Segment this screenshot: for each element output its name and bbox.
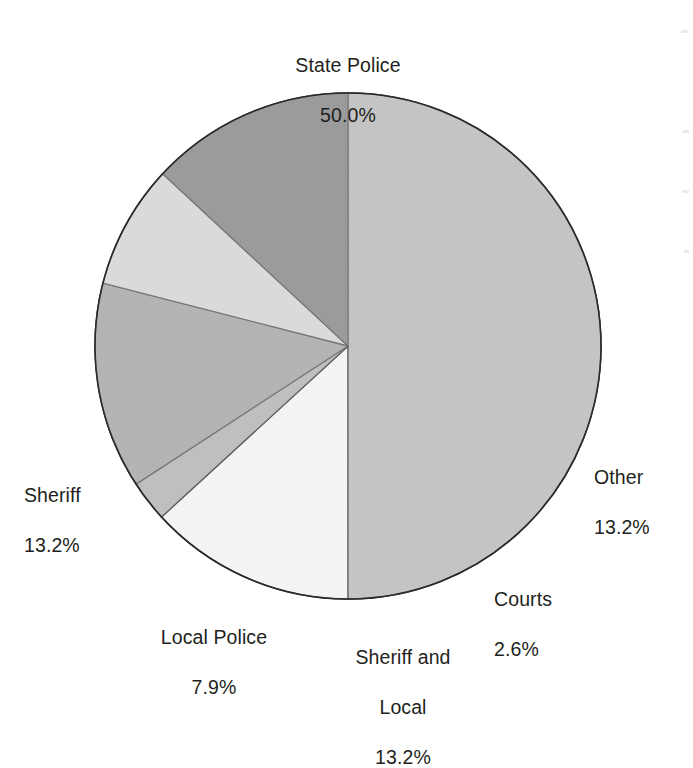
pie-label-sheriff-and-local-name-line1: Sheriff and	[318, 645, 488, 670]
pie-label-other-name: Other	[594, 465, 690, 490]
pie-label-sheriff-and-local: Sheriff and Local 13.2%	[318, 620, 488, 768]
pie-label-state-police: State Police 50.0%	[228, 28, 468, 153]
pie-label-courts: Courts 2.6%	[494, 562, 618, 687]
pie-label-sheriff-value: 13.2%	[24, 533, 150, 558]
scan-artifact-mark-2	[683, 130, 689, 133]
pie-label-sheriff-and-local-name-line2: Local	[318, 695, 488, 720]
pie-label-sheriff-and-local-value: 13.2%	[318, 745, 488, 768]
pie-label-sheriff: Sheriff 13.2%	[24, 458, 150, 583]
scan-artifact-mark-1	[681, 30, 688, 33]
pie-label-local-police-value: 7.9%	[126, 675, 302, 700]
pie-label-local-police: Local Police 7.9%	[126, 600, 302, 725]
pie-label-courts-value: 2.6%	[494, 637, 618, 662]
pie-label-state-police-value: 50.0%	[228, 103, 468, 128]
pie-slice-state-police	[348, 93, 601, 599]
pie-label-sheriff-name: Sheriff	[24, 483, 150, 508]
pie-label-local-police-name: Local Police	[126, 625, 302, 650]
scan-artifact-mark-3	[682, 190, 689, 193]
pie-slices	[95, 93, 601, 599]
pie-label-other: Other 13.2%	[594, 440, 690, 565]
scan-artifact-mark-4	[684, 250, 689, 253]
pie-label-other-value: 13.2%	[594, 515, 690, 540]
pie-label-courts-name: Courts	[494, 587, 618, 612]
pie-label-state-police-name: State Police	[228, 53, 468, 78]
